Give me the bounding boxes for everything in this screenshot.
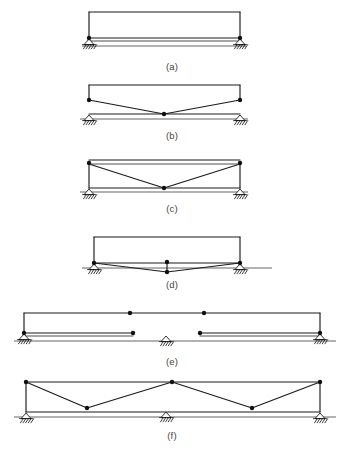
support-right-roller-hatch xyxy=(245,195,248,199)
support-left-pin-hatch xyxy=(89,195,92,199)
support-left-pin-hatch xyxy=(86,121,89,125)
support-right-roller-hatch xyxy=(235,195,238,199)
support-middle-roller-hatch xyxy=(168,342,171,346)
joint-b-joint-right xyxy=(238,98,242,102)
joint-e-joint-hinge-bottom-right xyxy=(198,331,202,335)
support-right-pin-hatch xyxy=(315,419,318,423)
joint-b-joint-left xyxy=(87,98,91,102)
joint-e-joint-left-support xyxy=(22,331,26,335)
support-right-roller-hatch xyxy=(235,270,238,274)
member-b-diagonal-left xyxy=(89,100,164,114)
support-middle-roller-hatch xyxy=(163,342,166,346)
support-right-roller-hatch xyxy=(237,270,240,274)
diagram-f: (f) xyxy=(14,380,336,441)
joint-d-joint-left xyxy=(92,261,96,265)
member-f-web-4 xyxy=(252,382,320,408)
support-right-roller-hatch xyxy=(240,195,243,199)
diagram-e: (e) xyxy=(14,311,336,367)
support-left-pin-hatch xyxy=(84,195,87,199)
support-left-pin-hatch xyxy=(28,419,31,423)
joint-f-joint-left-top xyxy=(24,380,28,384)
caption-a: (a) xyxy=(166,61,178,72)
support-right-pin-hatch xyxy=(240,45,243,49)
support-left-pin-hatch xyxy=(19,340,22,344)
caption-e: (e) xyxy=(166,356,178,367)
support-left-pin-hatch xyxy=(86,195,89,199)
caption-b: (b) xyxy=(166,130,178,141)
support-left-pin-hatch xyxy=(91,121,94,125)
support-middle-roller-hatch xyxy=(171,418,174,422)
joint-d-joint-right xyxy=(238,261,242,265)
support-middle-roller xyxy=(161,336,171,342)
caption-c: (c) xyxy=(166,203,178,214)
support-left-pin-hatch xyxy=(94,270,97,274)
support-middle-roller-hatch xyxy=(166,418,169,422)
support-right-roller xyxy=(235,115,245,121)
joint-d-joint-centre-bottom xyxy=(165,270,169,274)
member-f-web-1 xyxy=(26,382,87,408)
support-left-pin-hatch xyxy=(26,419,29,423)
support-right-roller-hatch xyxy=(242,195,245,199)
member-f-web-2 xyxy=(87,382,172,408)
support-right-roller-hatch xyxy=(240,270,243,274)
support-left-pin-hatch xyxy=(94,195,97,199)
support-left-pin-hatch xyxy=(96,270,99,274)
support-left-pin-hatch xyxy=(21,340,24,344)
joint-a-joint-left xyxy=(87,36,91,40)
support-right-roller-hatch xyxy=(245,270,248,274)
member-d-diagonal-right xyxy=(167,263,240,272)
joint-e-joint-hinge-bottom-left xyxy=(131,331,135,335)
joint-f-joint-web-left xyxy=(85,406,89,410)
joint-f-joint-right-top xyxy=(318,380,322,384)
diagram-c: (c) xyxy=(80,160,248,214)
support-right-pin-hatch xyxy=(317,340,320,344)
support-left-pin xyxy=(84,115,94,121)
support-middle-roller-hatch xyxy=(163,418,166,422)
caption-d: (d) xyxy=(166,279,178,290)
joint-c-joint-right xyxy=(238,161,242,165)
joint-f-joint-apex-centre xyxy=(170,380,174,384)
support-right-pin-hatch xyxy=(320,419,323,423)
support-middle-roller xyxy=(161,412,171,418)
support-right-roller-hatch xyxy=(235,121,238,125)
support-left-pin-hatch xyxy=(89,270,92,274)
support-left-pin xyxy=(21,413,31,419)
support-left-pin-hatch xyxy=(89,45,92,49)
joint-c-joint-centre xyxy=(162,186,166,190)
support-left-pin-hatch xyxy=(99,270,102,274)
joint-c-joint-left xyxy=(87,161,91,165)
joint-e-joint-hinge-top-right xyxy=(202,311,206,315)
support-left-pin-hatch xyxy=(94,121,97,125)
diagram-layer: (a)(b)(c)(d)(e)(f) xyxy=(14,12,336,441)
support-left-pin-hatch xyxy=(84,45,87,49)
joint-a-joint-right xyxy=(238,36,242,40)
member-f-web-3 xyxy=(172,382,252,408)
figure-sheet: (a)(b)(c)(d)(e)(f) xyxy=(0,0,347,449)
support-left-pin-hatch xyxy=(29,340,32,344)
support-right-roller-hatch xyxy=(237,195,240,199)
support-middle-roller-hatch xyxy=(161,342,164,346)
support-left-pin-hatch xyxy=(84,121,87,125)
joint-f-joint-web-right xyxy=(250,406,254,410)
diagram-b: (b) xyxy=(80,85,248,141)
support-left-pin-hatch xyxy=(24,340,27,344)
structural-diagrams-svg: (a)(b)(c)(d)(e)(f) xyxy=(0,0,347,449)
support-right-pin-hatch xyxy=(315,340,318,344)
support-right-roller-hatch xyxy=(242,121,245,125)
support-right-pin-hatch xyxy=(242,45,245,49)
diagram-d: (d) xyxy=(82,237,272,290)
support-left-pin-hatch xyxy=(91,195,94,199)
support-middle-roller-hatch xyxy=(168,418,171,422)
support-middle-roller-hatch xyxy=(171,342,174,346)
support-right-pin-hatch xyxy=(245,45,248,49)
diagram-a: (a) xyxy=(82,12,248,72)
support-left-pin-hatch xyxy=(91,45,94,49)
member-c-diagonal-left xyxy=(89,164,164,188)
support-right-pin-hatch xyxy=(237,45,240,49)
member-d-diagonal-left xyxy=(94,263,167,272)
member-b-diagonal-right xyxy=(164,100,240,114)
support-right-pin-hatch xyxy=(235,45,238,49)
support-right-pin-hatch xyxy=(322,340,325,344)
support-right-pin-hatch xyxy=(325,340,328,344)
support-right-roller-hatch xyxy=(245,121,248,125)
